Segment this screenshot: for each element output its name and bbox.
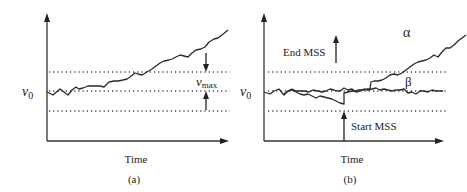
panel-a: v0 vmax Time (a): [22, 13, 230, 186]
end-arrowhead-icon: [333, 35, 339, 43]
start-mss-label: Start MSS: [351, 120, 397, 132]
time-label-b: Time: [341, 153, 364, 165]
x-axis-arrowhead-icon: [220, 138, 229, 144]
down-arrowhead-icon: [203, 64, 209, 72]
alpha-label: α: [403, 25, 411, 40]
vmax-label: vmax: [196, 74, 218, 90]
v0-label-a: v0: [22, 84, 33, 101]
end-mss-label: End MSS: [283, 46, 326, 58]
up-arrowhead-icon: [203, 91, 209, 99]
y-axis-arrowhead-icon: [44, 13, 50, 22]
start-arrowhead-icon: [341, 111, 347, 119]
caption-a: (a): [128, 173, 141, 186]
v0-label-b: v0: [240, 84, 251, 101]
beta-label: β: [405, 74, 412, 89]
panel-b: v0 End MSS Start MSS α β Time (b): [240, 13, 466, 186]
y-axis-arrowhead-icon: [261, 13, 267, 22]
caption-b: (b): [344, 173, 357, 186]
time-label-a: Time: [125, 153, 148, 165]
x-axis-arrowhead-icon: [435, 138, 444, 144]
figure-canvas: v0 vmax Time (a) v0 End MSS Start MSS α …: [0, 0, 467, 192]
